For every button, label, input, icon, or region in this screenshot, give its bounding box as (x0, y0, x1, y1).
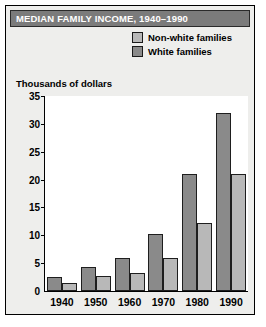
x-axis-tick-1940: 1940 (50, 296, 73, 308)
bar-group-1960 (113, 96, 147, 291)
bar-1980-white-families (182, 174, 197, 291)
bar-group-1950 (79, 96, 113, 291)
bar-group-1970 (147, 96, 181, 291)
legend-item-white-families: White families (132, 46, 252, 57)
legend-swatch-non-white (132, 32, 143, 43)
bar-1960-white-families (115, 258, 130, 291)
bar-1940-non-white-families (62, 283, 77, 291)
bar-1970-non-white-families (163, 258, 178, 291)
bar-1950-non-white-families (96, 276, 111, 291)
bar-1990-non-white-families (231, 174, 246, 291)
bar-group-1980 (180, 96, 214, 291)
bar-1970-white-families (148, 234, 163, 291)
chart-figure: MEDIAN FAMILY INCOME, 1940–1990 Non-whit… (5, 5, 255, 315)
bar-1940-white-families (47, 277, 62, 291)
bar-1990-white-families (216, 113, 231, 291)
plot-area: 05101520253035194019501960197019801990 (44, 96, 248, 292)
x-axis-tick-1970: 1970 (152, 296, 175, 308)
y-axis-tick-0: 0 (34, 286, 45, 297)
bar-group-1990 (214, 96, 248, 291)
x-axis-tick-1950: 1950 (84, 296, 107, 308)
chart-title-bar: MEDIAN FAMILY INCOME, 1940–1990 (10, 10, 250, 27)
legend-label-white: White families (148, 46, 212, 57)
bar-1960-non-white-families (130, 273, 145, 291)
x-axis-tick-1980: 1980 (186, 296, 209, 308)
legend-item-non-white-families: Non-white families (132, 32, 252, 43)
bar-1950-white-families (81, 267, 96, 291)
x-axis-tick-1990: 1990 (219, 296, 242, 308)
bar-group-1940 (45, 96, 79, 291)
legend-label-non-white: Non-white families (148, 32, 232, 43)
page-title: MEDIAN FAMILY INCOME, 1940–1990 (11, 13, 188, 24)
legend-swatch-white (132, 46, 143, 57)
chart-legend: Non-white families White families (132, 32, 252, 60)
x-axis-tick-1960: 1960 (118, 296, 141, 308)
y-axis-label: Thousands of dollars (16, 78, 112, 89)
bar-1980-non-white-families (197, 223, 212, 291)
